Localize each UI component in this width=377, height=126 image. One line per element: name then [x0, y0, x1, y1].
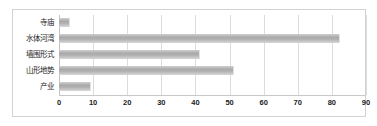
x-tick-label-70: 70	[283, 98, 313, 107]
bar-row: 产业	[59, 79, 366, 95]
category-label-0: 寺庙	[0, 15, 54, 31]
x-tick-label-20: 20	[112, 98, 142, 107]
x-tick-label-60: 60	[249, 98, 279, 107]
bar-row: 寺庙	[59, 15, 366, 31]
bar-row: 墙围形式	[59, 47, 366, 63]
x-tick-label-80: 80	[317, 98, 347, 107]
bar-row: 水体河湾	[59, 31, 366, 47]
bar-1	[59, 34, 340, 43]
category-label-3: 山形地势	[0, 63, 54, 79]
bar-3	[59, 66, 234, 75]
x-tick-label-10: 10	[78, 98, 108, 107]
x-tick-label-40: 40	[180, 98, 210, 107]
bar-4	[59, 82, 91, 91]
x-tick-label-50: 50	[215, 98, 245, 107]
x-tick-label-30: 30	[146, 98, 176, 107]
plot-area: 寺庙水体河湾墙围形式山形地势产业	[59, 15, 366, 95]
x-tick-label-0: 0	[44, 98, 74, 107]
bar-rows: 寺庙水体河湾墙围形式山形地势产业	[59, 15, 366, 95]
bar-0	[59, 18, 70, 27]
category-label-1: 水体河湾	[0, 31, 54, 47]
bar-2	[59, 50, 200, 59]
chart-frame: 寺庙水体河湾墙围形式山形地势产业 0102030405060708090	[12, 9, 366, 117]
x-tick-label-90: 90	[351, 98, 377, 107]
category-label-4: 产业	[0, 79, 54, 95]
category-label-2: 墙围形式	[0, 47, 54, 63]
bar-row: 山形地势	[59, 63, 366, 79]
gridline-90	[366, 15, 367, 95]
x-axis-baseline	[59, 95, 366, 96]
